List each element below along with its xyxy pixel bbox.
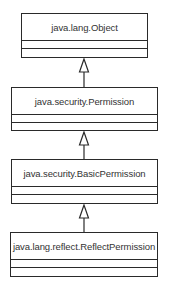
class-name: java.lang.Object	[22, 14, 147, 41]
class-box-basic-permission: java.security.BasicPermission	[11, 159, 158, 204]
attributes-compartment	[12, 115, 157, 123]
class-name: java.security.Permission	[12, 88, 157, 115]
generalization-arrow	[80, 132, 89, 159]
attributes-compartment	[11, 260, 157, 268]
class-name: java.security.BasicPermission	[12, 160, 157, 187]
generalization-arrow	[80, 205, 89, 232]
class-box-permission: java.security.Permission	[11, 87, 158, 131]
class-box-reflect-permission: java.lang.reflect.ReflectPermission	[10, 232, 158, 277]
operations-compartment	[22, 49, 147, 56]
generalization-arrow	[80, 59, 89, 87]
class-box-object: java.lang.Object	[21, 13, 148, 58]
operations-compartment	[12, 123, 157, 130]
attributes-compartment	[22, 41, 147, 49]
class-name: java.lang.reflect.ReflectPermission	[11, 233, 157, 260]
operations-compartment	[11, 268, 157, 275]
attributes-compartment	[12, 187, 157, 195]
operations-compartment	[12, 195, 157, 202]
